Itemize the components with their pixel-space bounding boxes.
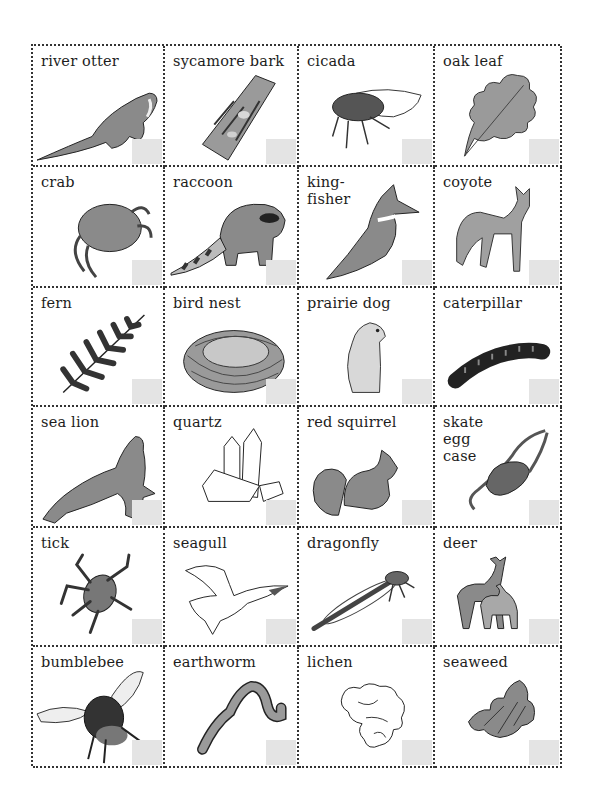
- card-sea-lion[interactable]: sea lion: [33, 407, 165, 528]
- card-crab[interactable]: crab: [33, 167, 165, 288]
- check-box[interactable]: [402, 500, 432, 525]
- check-box[interactable]: [529, 260, 559, 285]
- card-fern[interactable]: fern: [33, 288, 165, 407]
- check-box[interactable]: [402, 740, 432, 765]
- card-river-otter[interactable]: river otter: [33, 46, 165, 167]
- card-prairie-dog[interactable]: prairie dog: [299, 288, 435, 407]
- card-caterpillar[interactable]: caterpillar: [435, 288, 562, 407]
- check-box[interactable]: [266, 379, 296, 404]
- card-skate-egg-case[interactable]: skate egg case: [435, 407, 562, 528]
- card-lichen[interactable]: lichen: [299, 647, 435, 768]
- check-box[interactable]: [266, 500, 296, 525]
- check-box[interactable]: [529, 379, 559, 404]
- card-raccoon[interactable]: raccoon: [165, 167, 299, 288]
- card-bird-nest[interactable]: bird nest: [165, 288, 299, 407]
- card-earthworm[interactable]: earthworm: [165, 647, 299, 768]
- check-box[interactable]: [132, 500, 162, 525]
- check-box[interactable]: [132, 740, 162, 765]
- card-kingfisher[interactable]: king- fisher: [299, 167, 435, 288]
- card-deer[interactable]: deer: [435, 528, 562, 647]
- check-box[interactable]: [402, 139, 432, 164]
- check-box[interactable]: [266, 139, 296, 164]
- card-oak-leaf[interactable]: oak leaf: [435, 46, 562, 167]
- check-box[interactable]: [132, 260, 162, 285]
- card-red-squirrel[interactable]: red squirrel: [299, 407, 435, 528]
- card-coyote[interactable]: coyote: [435, 167, 562, 288]
- check-box[interactable]: [402, 619, 432, 644]
- scavenger-hunt-grid: river otter sycamore bark cicada oak lea…: [31, 44, 560, 766]
- check-box[interactable]: [529, 500, 559, 525]
- check-box[interactable]: [266, 740, 296, 765]
- check-box[interactable]: [266, 260, 296, 285]
- card-dragonfly[interactable]: dragonfly: [299, 528, 435, 647]
- check-box[interactable]: [402, 260, 432, 285]
- check-box[interactable]: [132, 139, 162, 164]
- check-box[interactable]: [529, 740, 559, 765]
- card-sycamore-bark[interactable]: sycamore bark: [165, 46, 299, 167]
- check-box[interactable]: [402, 379, 432, 404]
- card-seagull[interactable]: seagull: [165, 528, 299, 647]
- card-tick[interactable]: tick: [33, 528, 165, 647]
- card-bumblebee[interactable]: bumblebee: [33, 647, 165, 768]
- check-box[interactable]: [266, 619, 296, 644]
- check-box[interactable]: [132, 619, 162, 644]
- check-box[interactable]: [529, 139, 559, 164]
- check-box[interactable]: [529, 619, 559, 644]
- card-seaweed[interactable]: seaweed: [435, 647, 562, 768]
- card-cicada[interactable]: cicada: [299, 46, 435, 167]
- check-box[interactable]: [132, 379, 162, 404]
- card-quartz[interactable]: quartz: [165, 407, 299, 528]
